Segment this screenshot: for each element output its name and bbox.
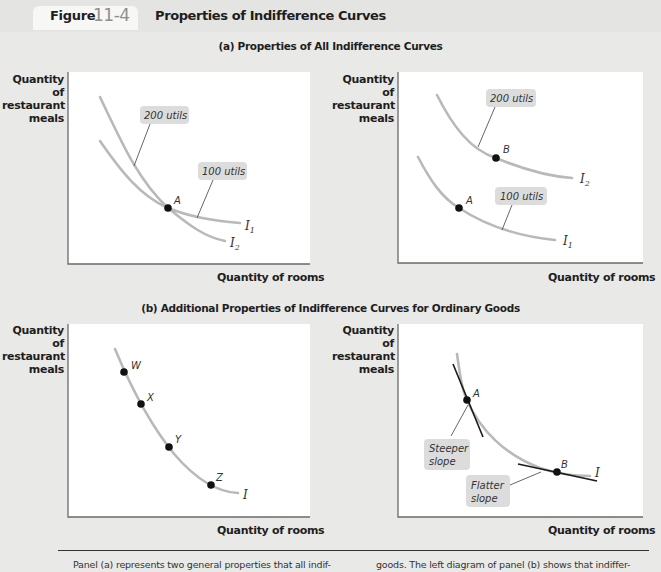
point-z [207, 481, 215, 489]
chart-a-right: 200 utils 100 utils B A I2 I1 [398, 72, 643, 263]
steeper-label-line2: slope [429, 456, 456, 467]
steeper-label-line1: Steeper [429, 443, 469, 454]
point-w [120, 368, 128, 376]
label-100-utils: 100 utils [500, 191, 543, 202]
point-x-label: X [146, 392, 155, 403]
label-200-utils: 200 utils [490, 93, 533, 104]
label-200-utils: 200 utils [144, 110, 187, 121]
point-b [553, 468, 561, 476]
point-a-label: A [173, 195, 181, 206]
curve-i-label: I [594, 466, 600, 480]
plot-area [68, 72, 310, 264]
label-100-utils: 100 utils [202, 166, 245, 177]
curve-i-label: I [242, 488, 248, 502]
chart-b-left: W X Y Z I [68, 324, 310, 517]
point-b-label: B [503, 144, 510, 155]
flatter-label-line1: Flatter [471, 480, 505, 491]
point-x [137, 400, 145, 408]
point-a-label: A [465, 195, 473, 206]
plot-area [398, 324, 643, 517]
caption-left-column: Panel (a) represents two general propert… [73, 559, 331, 570]
plot-area [68, 324, 310, 517]
caption-right-column: goods. The left diagram of panel (b) sho… [376, 559, 630, 570]
point-a [164, 204, 172, 212]
chart-b-right: Steeper slope Flatter slope A B I [398, 324, 643, 517]
point-b [492, 154, 500, 162]
point-y [165, 443, 173, 451]
caption-divider [58, 550, 649, 551]
figure-charts: .plot { fill:#ffffff; } .axis { stroke:#… [0, 0, 661, 572]
point-a [463, 396, 471, 404]
chart-a-left: 200 utils 100 utils A I1 I2 [68, 72, 310, 264]
point-z-label: Z [215, 472, 224, 483]
point-w-label: W [131, 360, 142, 371]
flatter-label-line2: slope [471, 493, 498, 504]
point-a-label: A [472, 388, 480, 399]
point-a [455, 204, 463, 212]
point-y-label: Y [175, 434, 182, 445]
point-b-label: B [561, 459, 568, 470]
